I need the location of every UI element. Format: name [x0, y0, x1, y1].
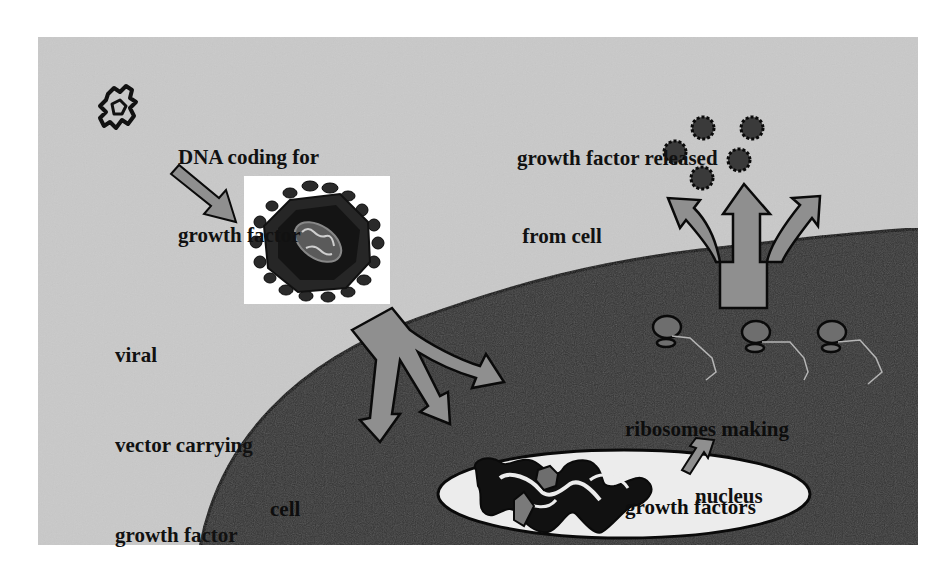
growth-factor-molecule-icon: [741, 117, 763, 139]
label-growth-factor-released: growth factor released from cell: [517, 93, 718, 275]
label-line: growth factor released: [517, 145, 718, 171]
label-cell: cell: [270, 496, 300, 522]
label-ribosomes: ribosomes making growth factors: [625, 364, 789, 546]
label-nucleus: nucleus: [695, 483, 763, 509]
label-dna-coding: DNA coding for growth factor: [178, 92, 319, 274]
label-viral-vector: viral vector carrying growth factor gene: [115, 280, 253, 569]
label-line: DNA coding for: [178, 144, 319, 170]
label-line: viral: [115, 340, 253, 370]
label-line: growth factor: [115, 520, 253, 550]
label-line: ribosomes making: [625, 416, 789, 442]
growth-factor-molecule-icon: [728, 149, 750, 171]
label-line: from cell: [517, 223, 718, 249]
label-line: growth factor: [178, 222, 319, 248]
label-line: vector carrying: [115, 430, 253, 460]
